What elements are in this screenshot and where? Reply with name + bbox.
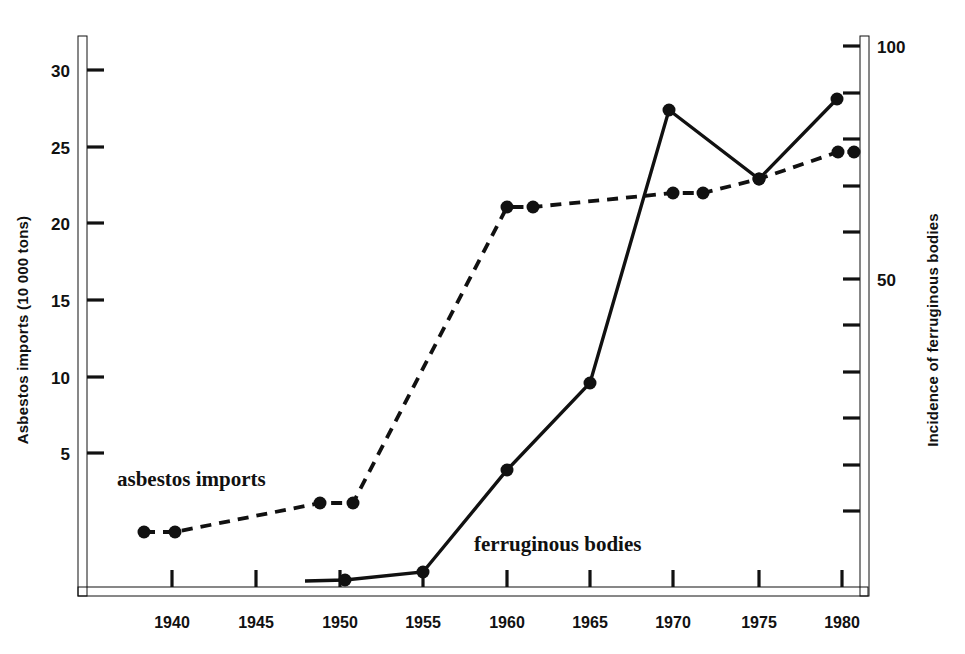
data-point xyxy=(169,526,182,539)
right-axis xyxy=(860,36,869,596)
data-point xyxy=(832,146,845,159)
data-point xyxy=(417,566,430,579)
x-tick-label-1960: 1960 xyxy=(489,614,525,631)
data-point xyxy=(753,173,766,186)
right-axis-tick-labels: 100 50 xyxy=(877,38,905,290)
left-axis-spine xyxy=(78,36,87,596)
data-point xyxy=(501,201,514,214)
right-tick-label-100: 100 xyxy=(877,38,905,57)
bottom-axis xyxy=(78,587,868,596)
left-tick-label-10: 10 xyxy=(51,369,70,388)
x-tick-label-1980: 1980 xyxy=(824,614,860,631)
data-point xyxy=(501,464,514,477)
x-tick-label-1975: 1975 xyxy=(741,614,777,631)
data-point xyxy=(347,497,360,510)
bottom-axis-spine xyxy=(78,587,868,596)
data-point xyxy=(527,201,540,214)
x-tick-label-1950: 1950 xyxy=(322,614,358,631)
x-tick-label-1970: 1970 xyxy=(655,614,691,631)
right-tick-label-50: 50 xyxy=(877,271,896,290)
chart-canvas: 30 25 20 15 10 5 100 50 xyxy=(0,0,965,654)
x-axis-ticks xyxy=(172,570,842,587)
x-tick-label-1945: 1945 xyxy=(238,614,274,631)
left-axis-title: Asbestos imports (10 000 tons) xyxy=(14,216,31,445)
data-point xyxy=(663,104,676,117)
x-tick-label-1965: 1965 xyxy=(572,614,608,631)
x-axis-tick-labels: 1940 1945 1950 1955 1960 1965 1970 1975 … xyxy=(154,614,860,631)
left-tick-label-20: 20 xyxy=(51,215,70,234)
annotation-asbestos-imports: asbestos imports xyxy=(117,467,266,491)
x-tick-label-1955: 1955 xyxy=(405,614,441,631)
data-point xyxy=(138,526,151,539)
data-point xyxy=(339,574,352,587)
left-tick-label-25: 25 xyxy=(51,139,70,158)
series-ferruginous-bodies xyxy=(305,93,844,587)
left-axis xyxy=(78,36,87,596)
right-axis-ticks xyxy=(843,46,860,511)
ferruginous-bodies-line xyxy=(305,99,837,581)
data-point xyxy=(667,187,680,200)
data-point xyxy=(848,146,861,159)
data-point xyxy=(314,497,327,510)
right-axis-title: Incidence of ferruginous bodies xyxy=(924,213,941,447)
annotation-ferruginous-bodies: ferruginous bodies xyxy=(474,532,641,556)
chart-figure: 30 25 20 15 10 5 100 50 xyxy=(0,0,965,654)
left-axis-ticks xyxy=(87,70,104,453)
left-tick-label-5: 5 xyxy=(61,445,70,464)
data-point xyxy=(831,93,844,106)
left-tick-label-30: 30 xyxy=(51,62,70,81)
data-point xyxy=(584,377,597,390)
left-tick-label-15: 15 xyxy=(51,292,70,311)
data-point xyxy=(697,187,710,200)
x-tick-label-1940: 1940 xyxy=(154,614,190,631)
left-axis-tick-labels: 30 25 20 15 10 5 xyxy=(51,62,70,464)
right-axis-spine xyxy=(860,36,869,596)
